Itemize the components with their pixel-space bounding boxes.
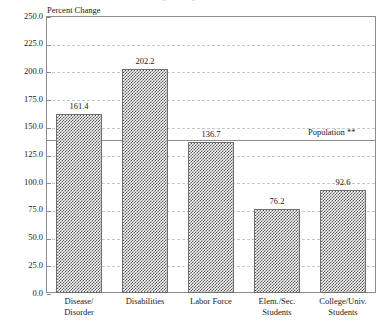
bar-group: 136.7 — [188, 16, 234, 293]
x-category-line: Disease/ — [46, 296, 112, 307]
x-category-label: Disease/Disorder — [46, 296, 112, 317]
bar-group: 161.4 — [56, 16, 102, 293]
x-category-label: College/Univ.Students — [310, 296, 376, 317]
population-reference-label: Population ** — [308, 128, 355, 137]
y-tick-label: 50.0 — [3, 233, 43, 242]
x-category-line: Elem./Sec. — [244, 296, 310, 307]
y-tick-label: 250.0 — [3, 12, 43, 21]
x-category-line: Students — [310, 307, 376, 318]
bar-value-label: 92.6 — [320, 178, 366, 187]
bar[interactable] — [188, 142, 234, 293]
bar-group: 202.2 — [122, 16, 168, 293]
y-tick-label: 75.0 — [3, 205, 43, 214]
y-tick-label: 25.0 — [3, 261, 43, 270]
x-category-line: College/Univ. — [310, 296, 376, 307]
x-category-line: Disorder — [46, 307, 112, 318]
x-category-label: Elem./Sec.Students — [244, 296, 310, 317]
y-tick-label: 200.0 — [3, 67, 43, 76]
y-tick-label: 175.0 — [3, 95, 43, 104]
bar-value-label: 136.7 — [188, 130, 234, 139]
x-category-line: Disabilities — [112, 296, 178, 307]
y-tick-label: 100.0 — [3, 178, 43, 187]
y-tick-label: 0.0 — [3, 289, 43, 298]
bar-group: 92.6 — [320, 16, 366, 293]
x-axis: Disease/DisorderDisabilitiesLabor ForceE… — [46, 296, 376, 330]
chart-title: Percent Change in Population, 1970 to 20… — [0, 0, 388, 1]
bar-value-label: 76.2 — [254, 197, 300, 206]
bars-layer: 161.4202.2136.776.292.6 — [46, 16, 376, 293]
x-category-line: Students — [244, 307, 310, 318]
x-category-label: Disabilities — [112, 296, 178, 307]
y-tick-label: 150.0 — [3, 122, 43, 131]
bar[interactable] — [254, 209, 300, 293]
bar-value-label: 202.2 — [122, 57, 168, 66]
bar[interactable] — [56, 114, 102, 293]
y-tick-label: 125.0 — [3, 150, 43, 159]
bar[interactable] — [320, 190, 366, 293]
x-category-line: Labor Force — [178, 296, 244, 307]
y-tick-mark — [47, 294, 51, 295]
y-tick-label: 225.0 — [3, 39, 43, 48]
bar-group: 76.2 — [254, 16, 300, 293]
x-category-label: Labor Force — [178, 296, 244, 307]
bar[interactable] — [122, 69, 168, 293]
bar-value-label: 161.4 — [56, 102, 102, 111]
bar-chart: Percent Change in Population, 1970 to 20… — [0, 0, 388, 331]
y-axis-title: Percent Change — [47, 5, 101, 15]
